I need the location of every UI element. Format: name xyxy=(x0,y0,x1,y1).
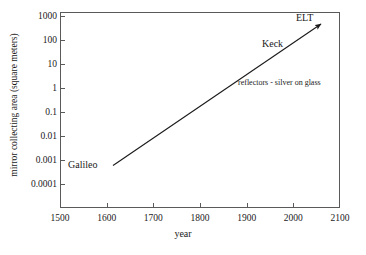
y-tick-mark xyxy=(60,160,65,161)
y-tick-label: 0.1 xyxy=(45,107,57,117)
x-tick-mark xyxy=(247,203,248,208)
x-tick-mark xyxy=(107,203,108,208)
y-tick-mark xyxy=(60,184,65,185)
y-tick-label: 0.0001 xyxy=(31,179,57,189)
y-tick-mark xyxy=(60,64,65,65)
x-tick-label: 1600 xyxy=(97,213,116,224)
y-tick-label: 100 xyxy=(43,35,57,45)
chart-figure: 1000 100 10 1 0.1 0.01 0.001 0.0001 1500… xyxy=(0,0,366,255)
y-tick-label: 1 xyxy=(52,83,57,93)
x-tick-mark xyxy=(200,203,201,208)
annotation-reflectors: reflectors - silver on glass xyxy=(238,78,321,87)
y-tick-mark xyxy=(60,136,65,137)
y-tick-label: 0.01 xyxy=(40,131,57,141)
y-tick-label: 1000 xyxy=(38,11,57,21)
x-tick-label: 2000 xyxy=(284,213,303,224)
y-tick-mark xyxy=(60,88,65,89)
data-label-keck: Keck xyxy=(262,38,283,49)
y-tick-mark xyxy=(60,40,65,41)
data-label-elt: ELT xyxy=(296,12,313,23)
y-tick-label: 10 xyxy=(48,59,58,69)
y-tick-mark xyxy=(60,16,65,17)
x-tick-mark xyxy=(153,203,154,208)
data-label-galileo: Galileo xyxy=(68,159,97,170)
y-tick-mark xyxy=(60,112,65,113)
x-tick-label: 1900 xyxy=(237,213,256,224)
x-tick-label: 1800 xyxy=(191,213,210,224)
plot-area xyxy=(60,12,340,208)
x-axis-title: year xyxy=(0,228,366,239)
x-tick-mark xyxy=(293,203,294,208)
y-tick-label: 0.001 xyxy=(36,155,57,165)
y-axis-title: mirror collecting area (square meters) xyxy=(9,5,19,205)
x-tick-label: 1700 xyxy=(144,213,163,224)
x-tick-label: 2100 xyxy=(331,213,350,224)
x-tick-label: 1500 xyxy=(51,213,70,224)
